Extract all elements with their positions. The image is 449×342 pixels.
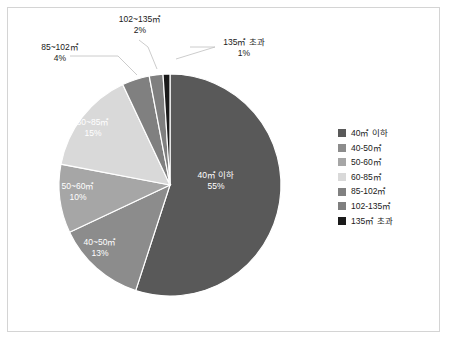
legend-item[interactable]: 85-102㎡	[338, 184, 438, 199]
legend-swatch-icon	[338, 217, 346, 225]
legend-label: 135㎡ 초과	[351, 217, 393, 226]
leader-line-102-135	[139, 40, 157, 69]
legend-swatch-icon	[338, 158, 346, 166]
legend-item[interactable]: 40-50㎡	[338, 141, 438, 156]
legend-item[interactable]: 135㎡ 초과	[338, 214, 438, 229]
legend-item[interactable]: 60-85㎡	[338, 170, 438, 185]
legend-label: 85-102㎡	[351, 187, 386, 196]
legend-swatch-icon	[338, 188, 346, 196]
legend-label: 50-60㎡	[351, 158, 382, 167]
chart-page: 40㎡ 이하 55% 40~50㎡ 13% 50~60㎡ 10% 60~85㎡ …	[0, 0, 449, 342]
legend-swatch-icon	[338, 173, 346, 181]
legend-label: 40-50㎡	[351, 144, 382, 153]
legend-label: 60-85㎡	[351, 173, 382, 182]
legend-swatch-icon	[338, 144, 346, 152]
leader-line-85-102	[70, 56, 137, 75]
legend-item[interactable]: 50-60㎡	[338, 155, 438, 170]
legend-label: 40㎡ 이하	[351, 129, 388, 138]
legend-swatch-icon	[338, 129, 346, 137]
leader-line-group	[70, 40, 215, 75]
legend-item[interactable]: 40㎡ 이하	[338, 126, 438, 141]
leader-line-135-over	[176, 47, 215, 59]
chart-legend: 40㎡ 이하40-50㎡50-60㎡60-85㎡85-102㎡102-135㎡1…	[338, 126, 438, 228]
legend-item[interactable]: 102-135㎡	[338, 199, 438, 214]
legend-label: 102-135㎡	[351, 202, 391, 211]
pie-slice-group	[59, 74, 281, 296]
legend-swatch-icon	[338, 202, 346, 210]
